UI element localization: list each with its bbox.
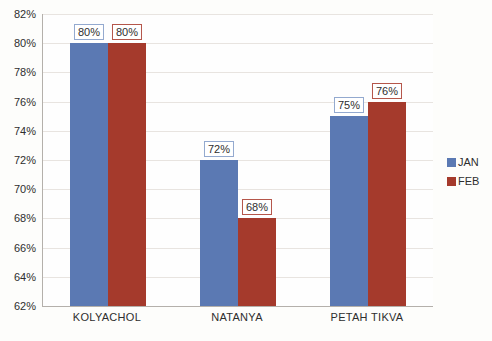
jan-bar-fill bbox=[330, 116, 368, 306]
category-label: PETAH TIKVA bbox=[331, 311, 404, 323]
bar-group-natanya: 72%68% bbox=[200, 14, 276, 306]
legend: JAN FEB bbox=[447, 156, 479, 194]
feb-legend-swatch-icon bbox=[447, 177, 456, 186]
legend-item-jan: JAN bbox=[447, 156, 479, 168]
jan-bar-fill bbox=[200, 160, 238, 306]
category-label: NATANYA bbox=[211, 311, 263, 323]
bar-group-kolyachol: 80%80% bbox=[70, 14, 146, 306]
x-axis: KOLYACHOLNATANYAPETAH TIKVA bbox=[42, 311, 432, 327]
legend-item-feb: FEB bbox=[447, 175, 479, 187]
jan-legend-swatch-icon bbox=[447, 158, 456, 167]
jan-bar-fill bbox=[70, 43, 108, 306]
plot-area: 80%80%72%68%75%76% bbox=[42, 14, 433, 307]
y-axis-tick-label: 80% bbox=[14, 37, 36, 49]
legend-label-feb: FEB bbox=[458, 175, 479, 187]
y-axis: 82%80%78%76%74%72%70%68%66%64%62% bbox=[0, 14, 36, 306]
feb-bar: 76% bbox=[368, 14, 406, 306]
bar-chart: 82%80%78%76%74%72%70%68%66%64%62% 80%80%… bbox=[0, 0, 492, 341]
feb-bar-fill bbox=[108, 43, 146, 306]
jan-bar-value-label: 80% bbox=[74, 24, 104, 40]
y-axis-tick-label: 74% bbox=[14, 125, 36, 137]
jan-bar: 72% bbox=[200, 14, 238, 306]
jan-bar: 80% bbox=[70, 14, 108, 306]
jan-bar: 75% bbox=[330, 14, 368, 306]
y-axis-tick-label: 78% bbox=[14, 66, 36, 78]
feb-bar: 68% bbox=[238, 14, 276, 306]
y-axis-tick-label: 82% bbox=[14, 8, 36, 20]
y-axis-tick-label: 68% bbox=[14, 212, 36, 224]
feb-bar-value-label: 76% bbox=[372, 83, 402, 99]
y-axis-tick-label: 64% bbox=[14, 271, 36, 283]
y-axis-tick-label: 62% bbox=[14, 300, 36, 312]
feb-bar: 80% bbox=[108, 14, 146, 306]
jan-bar-value-label: 72% bbox=[204, 141, 234, 157]
jan-bar-value-label: 75% bbox=[334, 97, 364, 113]
y-axis-tick-label: 70% bbox=[14, 183, 36, 195]
category-label: KOLYACHOL bbox=[73, 311, 141, 323]
y-axis-tick-label: 72% bbox=[14, 154, 36, 166]
y-axis-tick-label: 66% bbox=[14, 242, 36, 254]
feb-bar-fill bbox=[368, 102, 406, 306]
y-axis-tick-label: 76% bbox=[14, 96, 36, 108]
legend-label-jan: JAN bbox=[458, 156, 479, 168]
feb-bar-fill bbox=[238, 218, 276, 306]
bar-group-petah-tikva: 75%76% bbox=[330, 14, 406, 306]
feb-bar-value-label: 80% bbox=[112, 24, 142, 40]
feb-bar-value-label: 68% bbox=[242, 199, 272, 215]
